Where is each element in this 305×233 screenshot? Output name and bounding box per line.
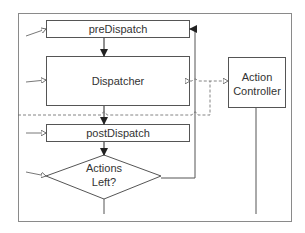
- input-arrow-pre: [26, 29, 46, 36]
- controller-label-line2: Controller: [228, 84, 286, 98]
- input-arrow-dispatcher: [26, 80, 46, 82]
- outer-frame: [19, 14, 292, 222]
- decision-label-line1: Actions: [74, 161, 134, 175]
- pre-dispatch-label: preDispatch: [46, 22, 190, 36]
- post-dispatch-label: postDispatch: [46, 126, 190, 140]
- dashed-dispatcher-controller: [190, 79, 228, 81]
- controller-label-line1: Action: [228, 70, 286, 84]
- dispatcher-label: Dispatcher: [46, 74, 190, 88]
- decision-label-line2: Left?: [74, 175, 134, 189]
- input-arrow-decision: [26, 172, 46, 176]
